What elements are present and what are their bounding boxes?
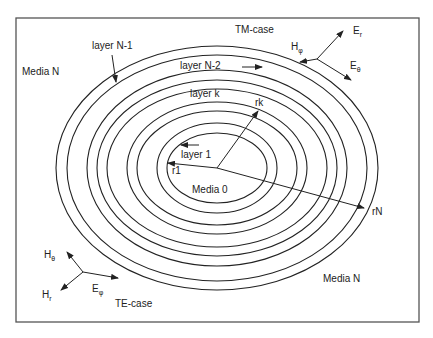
- layer-n1-pointer-arrow: [112, 55, 116, 82]
- layer-1-label: layer 1: [181, 150, 211, 160]
- hphi-label: Hφ: [291, 42, 303, 52]
- te-case-label: TE-case: [115, 299, 152, 309]
- hphi-arrow: [300, 59, 317, 62]
- rk-radius-arrow: [217, 111, 258, 168]
- etheta-label: Eθ: [350, 61, 361, 71]
- er-arrow: [317, 31, 343, 59]
- ephi-label: Eφ: [92, 284, 103, 294]
- media-0-label: Media 0: [192, 185, 228, 195]
- te-field-vectors: [61, 252, 118, 290]
- htheta-arrow: [67, 252, 83, 272]
- layered-sphere-diagram: [0, 0, 433, 338]
- r1-label: r1: [172, 166, 181, 176]
- tm-field-vectors: [300, 31, 351, 80]
- layer-k-label: layer k: [190, 89, 219, 99]
- etheta-arrow: [317, 59, 351, 80]
- er-label: Er: [353, 26, 362, 36]
- tm-case-label: TM-case: [235, 25, 274, 35]
- layer-n2-label: layer N-2: [180, 61, 221, 71]
- rk-label: rk: [255, 98, 263, 108]
- hr-label: Hr: [42, 290, 52, 300]
- layer-n1-label: layer N-1: [92, 41, 133, 51]
- htheta-label: Hθ: [44, 250, 55, 260]
- rN-label: rN: [372, 207, 383, 217]
- rN-radius-arrow: [217, 168, 364, 208]
- media-n-top-label: Media N: [22, 67, 59, 77]
- ephi-arrow: [83, 272, 118, 278]
- media-n-bottom-label: Media N: [323, 274, 360, 284]
- hr-arrow: [61, 272, 83, 290]
